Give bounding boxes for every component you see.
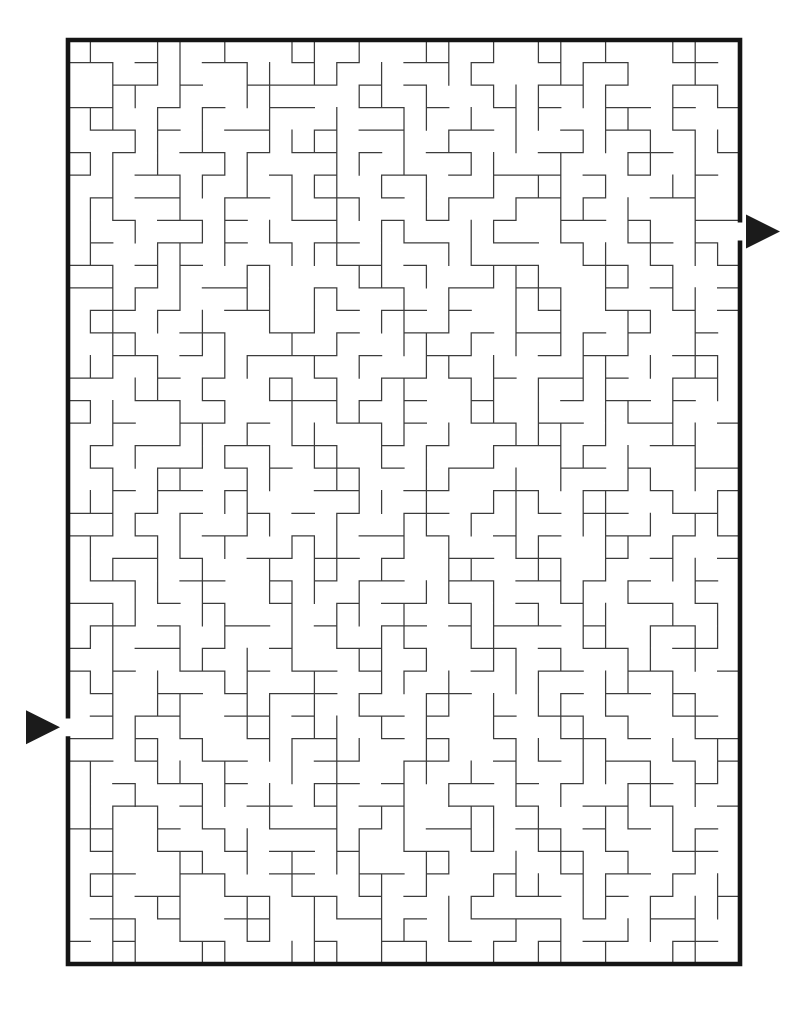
entrance-arrow-icon [26, 710, 60, 744]
exit-arrow-icon [746, 215, 780, 249]
maze-canvas [0, 0, 807, 1010]
maze-walls [68, 40, 740, 964]
maze-page [0, 0, 807, 1010]
